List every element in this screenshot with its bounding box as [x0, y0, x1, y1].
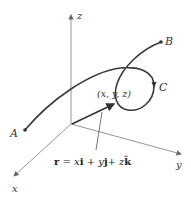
z-axis-label: z — [76, 10, 83, 21]
position-vector-r — [72, 104, 114, 124]
x-axis — [14, 124, 71, 176]
eq-equals: = — [59, 156, 74, 167]
y-axis — [71, 124, 181, 154]
position-vector-equation: r = xi + yj+ zk̂ — [54, 155, 132, 167]
space-curve — [25, 42, 161, 130]
vector-position-diagram: z y x A B C (x, y, z) r = xi + yj+ zk̂ — [0, 0, 191, 199]
point-c-label: C — [159, 81, 168, 94]
eq-plus-2: + — [108, 156, 120, 167]
point-a-dot — [23, 128, 27, 132]
point-b-dot — [159, 40, 163, 44]
point-b-label: B — [164, 35, 173, 48]
x-axis-label: x — [12, 183, 18, 194]
point-a-label: A — [9, 127, 18, 140]
y-axis-label: y — [175, 159, 182, 170]
eq-plus-1: + — [83, 156, 98, 167]
curve-direction-arrow-icon — [152, 82, 157, 88]
eq-k: k̂ — [123, 155, 132, 167]
position-label: (x, y, z) — [97, 88, 131, 99]
